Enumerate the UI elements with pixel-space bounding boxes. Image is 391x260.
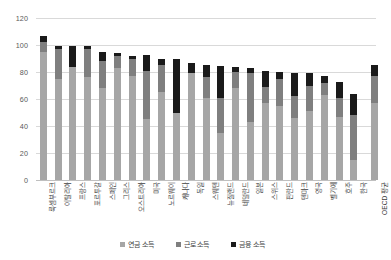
bar-column bbox=[276, 72, 283, 180]
segment-work bbox=[55, 49, 62, 79]
segment-pension bbox=[143, 119, 150, 180]
segment-capital bbox=[306, 73, 313, 85]
bar-column bbox=[158, 59, 165, 181]
segment-capital bbox=[158, 59, 165, 66]
segment-capital bbox=[371, 65, 378, 76]
x-axis-tick: 오스트리아 bbox=[136, 182, 148, 234]
bar-column bbox=[321, 76, 328, 180]
x-axis-tick: 캐나다 bbox=[180, 182, 192, 234]
segment-work bbox=[129, 59, 136, 77]
segment-work bbox=[371, 76, 378, 103]
bar-column bbox=[232, 67, 239, 180]
y-axis-tick-40: 40 bbox=[20, 122, 28, 131]
segment-capital bbox=[262, 71, 269, 87]
segment-pension bbox=[173, 113, 180, 181]
gridline-0 bbox=[36, 180, 376, 181]
x-axis-tick: 그리스 bbox=[121, 182, 133, 234]
segment-work bbox=[350, 115, 357, 160]
bar-column bbox=[217, 66, 224, 180]
segment-work bbox=[158, 65, 165, 92]
segment-pension bbox=[114, 68, 121, 180]
x-axis-tick: 뉴질랜드 bbox=[225, 182, 237, 234]
bar-column bbox=[336, 82, 343, 180]
x-axis-tick: 네덜란드 bbox=[240, 182, 252, 234]
bar-column bbox=[84, 46, 91, 180]
chart-legend: 연금 소득근로 소득금융 소득 bbox=[0, 236, 385, 252]
bar-column bbox=[173, 59, 180, 181]
bar-column bbox=[371, 65, 378, 180]
x-axis: 룩셈부르크이탈리아프랑스포르투갈스페인그리스오스트리아미국노르웨이캐나다독일스웨… bbox=[36, 182, 376, 234]
x-axis-tick: 미국 bbox=[151, 182, 163, 234]
legend-item[interactable]: 근로 소득 bbox=[176, 239, 210, 249]
bar-column bbox=[262, 71, 269, 180]
legend-label: 근로 소득 bbox=[184, 239, 210, 249]
segment-pension bbox=[247, 122, 254, 180]
x-axis-tick: 호주 bbox=[343, 182, 355, 234]
x-axis-tick: 영국 bbox=[313, 182, 325, 234]
bar-column bbox=[143, 55, 150, 180]
segment-pension bbox=[69, 67, 76, 180]
y-axis-tick-80: 80 bbox=[20, 68, 28, 77]
segment-capital bbox=[69, 46, 76, 66]
segment-capital bbox=[350, 94, 357, 115]
segment-capital bbox=[291, 73, 298, 97]
segment-work bbox=[114, 56, 121, 68]
segment-pension bbox=[40, 52, 47, 180]
segment-capital bbox=[188, 63, 195, 74]
segment-work bbox=[217, 98, 224, 133]
x-axis-tick: 프랑스 bbox=[77, 182, 89, 234]
segment-capital bbox=[217, 66, 224, 98]
x-axis-tick: 스웨덴 bbox=[210, 182, 222, 234]
segment-pension bbox=[306, 111, 313, 180]
segment-work bbox=[143, 71, 150, 120]
x-axis-tick: 벨기에 bbox=[328, 182, 340, 234]
x-axis-tick: 독일 bbox=[195, 182, 207, 234]
bar-column bbox=[306, 73, 313, 180]
segment-work bbox=[99, 61, 106, 88]
segment-work bbox=[84, 49, 91, 77]
segment-capital bbox=[99, 52, 106, 61]
segment-work bbox=[247, 73, 254, 122]
segment-pension bbox=[276, 106, 283, 180]
segment-pension bbox=[129, 76, 136, 180]
segment-work bbox=[262, 87, 269, 103]
bar-column bbox=[350, 94, 357, 180]
segment-capital bbox=[143, 55, 150, 71]
segment-pension bbox=[371, 103, 378, 180]
segment-pension bbox=[321, 95, 328, 180]
bar-column bbox=[129, 56, 136, 180]
y-axis-tick-120: 120 bbox=[16, 14, 28, 23]
bar-column bbox=[247, 68, 254, 180]
x-axis-tick: 핀란드 bbox=[284, 182, 296, 234]
legend-swatch-pension bbox=[120, 242, 125, 247]
segment-work bbox=[232, 72, 239, 88]
legend-label: 연금 소득 bbox=[128, 239, 154, 249]
bar-column bbox=[99, 52, 106, 180]
segment-work bbox=[276, 79, 283, 106]
x-axis-tick: 노르웨이 bbox=[166, 182, 178, 234]
legend-swatch-work bbox=[176, 242, 181, 247]
bars-layer bbox=[36, 18, 376, 180]
segment-work bbox=[336, 98, 343, 117]
x-axis-tick: 한국 bbox=[358, 182, 370, 234]
bar-column bbox=[291, 73, 298, 180]
x-axis-tick: 덴마크 bbox=[299, 182, 311, 234]
y-axis-tick-0: 0 bbox=[24, 176, 28, 185]
legend-item[interactable]: 금융 소득 bbox=[231, 239, 265, 249]
segment-pension bbox=[262, 103, 269, 180]
plot-area bbox=[36, 18, 376, 180]
segment-pension bbox=[232, 88, 239, 180]
x-axis-tick: 룩셈부르크 bbox=[47, 182, 59, 234]
x-axis-tick: 스페인 bbox=[107, 182, 119, 234]
segment-pension bbox=[217, 133, 224, 180]
segment-capital bbox=[40, 36, 47, 43]
bar-column bbox=[203, 65, 210, 180]
y-axis-tick-20: 20 bbox=[20, 149, 28, 158]
segment-capital bbox=[336, 82, 343, 98]
segment-pension bbox=[158, 92, 165, 180]
x-axis-tick: 포르투갈 bbox=[92, 182, 104, 234]
segment-pension bbox=[336, 117, 343, 180]
bar-column bbox=[40, 36, 47, 180]
legend-item[interactable]: 연금 소득 bbox=[120, 239, 154, 249]
